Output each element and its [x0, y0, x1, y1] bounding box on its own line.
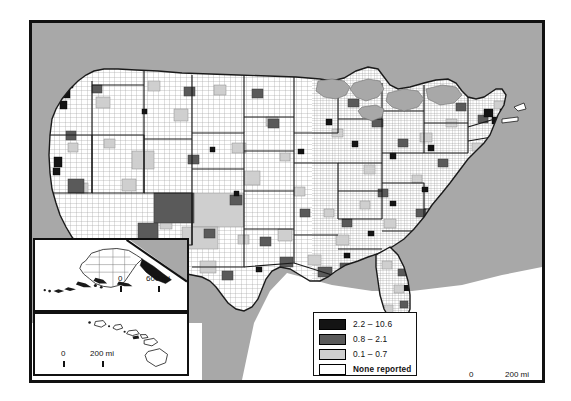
- hawaii-inset: [33, 312, 189, 376]
- scalebar-alaska-line: [120, 285, 160, 292]
- map-legend: 2.2 – 10.6 0.8 – 2.1 0.1 – 0.7 None repo…: [313, 312, 417, 376]
- legend-swatch-low: [319, 349, 346, 360]
- map-frame: 2.2 – 10.6 0.8 – 2.1 0.1 – 0.7 None repo…: [29, 20, 545, 383]
- legend-swatch-none: [319, 364, 346, 375]
- legend-row: None reported: [319, 362, 411, 376]
- legend-label-none: None reported: [353, 365, 412, 374]
- legend-label-highest: 2.2 – 10.6: [353, 319, 392, 329]
- scalebar-alaska-value: 600 mi: [146, 274, 170, 283]
- hawaii-islands: [94, 321, 167, 367]
- scalebar-hawaii-zero: 0: [61, 349, 65, 358]
- scalebar-main-line: [471, 381, 519, 383]
- scalebar-main-zero: 0: [469, 370, 473, 379]
- scalebar-main-value: 200 mi: [505, 370, 529, 379]
- legend-label-high: 0.8 – 2.1: [353, 334, 387, 344]
- scalebar-alaska-zero: 0: [118, 274, 122, 283]
- scalebar-main-labels: 0 200 mi: [471, 370, 519, 381]
- legend-row: 0.8 – 2.1: [319, 332, 411, 346]
- scalebar-hawaii: 0 200 mi: [63, 349, 104, 367]
- scalebar-hawaii-labels: 0 200 mi: [63, 349, 104, 360]
- legend-swatch-highest: [319, 319, 346, 330]
- scalebar-hawaii-line: [63, 360, 104, 367]
- scalebar-hawaii-value: 200 mi: [90, 349, 114, 358]
- scalebar-main: 0 200 mi: [471, 370, 519, 383]
- legend-row: 2.2 – 10.6: [319, 317, 411, 331]
- legend-swatch-high: [319, 334, 346, 345]
- scalebar-alaska-labels: 0 600 mi: [120, 274, 160, 285]
- legend-label-low: 0.1 – 0.7: [353, 349, 387, 359]
- legend-row: 0.1 – 0.7: [319, 347, 411, 361]
- scalebar-alaska: 0 600 mi: [120, 274, 160, 292]
